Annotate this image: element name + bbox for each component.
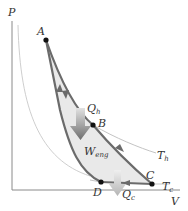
hot-isotherm-label: Th	[157, 150, 169, 163]
point-b-label: B	[98, 118, 106, 129]
v-axis-label: V	[171, 196, 179, 207]
point-c-label: C	[146, 170, 154, 181]
heat-in-label: Qh	[87, 103, 101, 116]
heat-out-label: Qc	[122, 189, 135, 202]
point-a	[43, 37, 48, 42]
point-d-label: D	[93, 187, 102, 198]
point-b	[90, 122, 95, 127]
p-axis-label: P	[8, 7, 15, 18]
point-d	[98, 179, 103, 184]
carnot-diagram: P V A B C D Qh Qc Weng Th Tc	[0, 0, 188, 211]
cold-isotherm-label: Tc	[162, 181, 173, 194]
point-c	[149, 181, 154, 186]
point-a-label: A	[37, 26, 45, 37]
work-label: Weng	[84, 146, 108, 159]
